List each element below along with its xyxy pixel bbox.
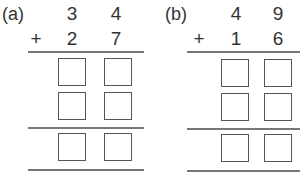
problem-a-top-tens: 3 xyxy=(60,4,84,24)
problem-b-sum-line xyxy=(187,51,300,53)
problem-b-top-ones: 9 xyxy=(266,4,290,24)
problem-a-answer-box-r2-tens[interactable] xyxy=(58,92,86,120)
problem-b-label: (b) xyxy=(165,4,187,24)
problem-b-answer-box-r3-ones[interactable] xyxy=(264,134,292,162)
problem-a-label: (a) xyxy=(2,4,24,24)
problem-b-answer-box-r1-tens[interactable] xyxy=(221,59,249,87)
problem-b-answer-box-r2-tens[interactable] xyxy=(221,93,249,121)
problem-a-bottom-tens: 2 xyxy=(60,29,84,49)
problem-a-bottom-line xyxy=(28,169,144,171)
problem-b-bottom-tens: 1 xyxy=(224,29,248,49)
problem-a-answer-box-r1-tens[interactable] xyxy=(58,58,86,86)
problem-b-bottom-ones: 6 xyxy=(266,29,290,49)
problem-b-divider-line xyxy=(187,128,300,130)
problem-b-plus-sign: + xyxy=(191,29,207,49)
problem-a-answer-box-r1-ones[interactable] xyxy=(104,58,132,86)
problem-b-top-tens: 4 xyxy=(224,4,248,24)
problem-b-answer-box-r3-tens[interactable] xyxy=(221,134,249,162)
problem-a-divider-line xyxy=(28,127,144,129)
problem-b-answer-box-r2-ones[interactable] xyxy=(264,93,292,121)
problem-a-answer-box-r2-ones[interactable] xyxy=(104,92,132,120)
problem-a-answer-box-r3-tens[interactable] xyxy=(58,133,86,161)
problem-a-answer-box-r3-ones[interactable] xyxy=(104,133,132,161)
problem-a-sum-line xyxy=(28,51,144,53)
problem-b-bottom-line xyxy=(187,170,300,172)
problem-a-top-ones: 4 xyxy=(104,4,128,24)
problem-b-answer-box-r1-ones[interactable] xyxy=(264,59,292,87)
problem-a-bottom-ones: 7 xyxy=(104,29,128,49)
problem-a-plus-sign: + xyxy=(28,29,44,49)
